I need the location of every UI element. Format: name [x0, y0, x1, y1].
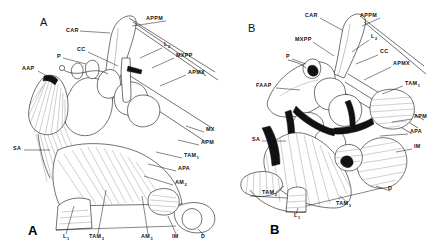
anatomy-label-d: D [388, 185, 392, 191]
anatomy-label-car: CAR [305, 12, 318, 18]
anatomy-label-apm: APM [414, 113, 427, 119]
small-hatched-oval-b [335, 144, 362, 171]
anatomy-label-sa: SA [252, 136, 260, 142]
anatomy-label-cc: CC [380, 48, 389, 54]
anatomy-label-p: P [286, 53, 290, 59]
anatomy-label-apm: APM [201, 139, 214, 145]
anatomy-label-im: IM [172, 233, 179, 239]
anatomy-label-apmx: APMX [393, 60, 410, 66]
im-muscle-a [148, 189, 179, 216]
anatomy-label-apmx: APMX [188, 69, 205, 75]
anatomy-label-mxpp: MXPP [295, 36, 312, 42]
tam1-muscle-b [370, 89, 414, 129]
anatomy-label-p: P [57, 53, 61, 59]
node-p [59, 65, 64, 70]
anatomy-label-apa: APA [178, 165, 190, 171]
anatomy-label-apa: APA [410, 128, 422, 134]
panel-b-letter-top: B [248, 22, 255, 34]
anatomy-label-d: D [201, 233, 205, 239]
anatomy-label-mx: MX [206, 126, 215, 132]
central-apodeme [121, 58, 131, 102]
anatomy-label-faap: FAAP [256, 82, 272, 88]
lobe-mid-b2 [329, 94, 362, 126]
paragnath-b [85, 60, 99, 78]
lobe-mid-lower [127, 95, 159, 127]
anatomy-label-appm: APPM [360, 12, 377, 18]
anatomy-label-cc: CC [77, 46, 86, 52]
panel-a-letter-top: A [40, 16, 48, 28]
panel-a-letter-bottom: A [28, 223, 38, 238]
figure-container: CARAPPMCCPL2MXPPAPMXAAPSAMXAPMTAM1APAAM2… [0, 0, 436, 249]
anatomy-label-mxpp: MXPP [176, 52, 193, 58]
l1-segment-a [56, 198, 92, 230]
anatomy-label-sa: SA [13, 145, 21, 151]
anatomy-label-aap: AAP [22, 65, 34, 71]
l1-segment-b [286, 187, 306, 212]
anatomy-label-im: IM [414, 143, 421, 149]
anatomy-label-car: CAR [66, 27, 79, 33]
anatomy-label-appm: APPM [146, 15, 163, 21]
im-muscle-b [357, 138, 407, 189]
anatomical-figure-svg: CARAPPMCCPL2MXPPAPMXAAPSAMXAPMTAM1APAAM2… [0, 0, 436, 249]
panel-b-letter-bottom: B [270, 222, 279, 237]
